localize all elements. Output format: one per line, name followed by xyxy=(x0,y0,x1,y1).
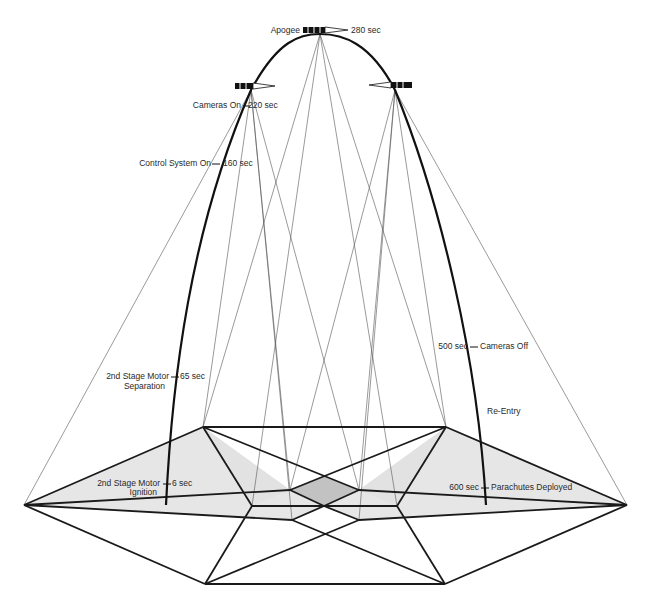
cameras-on-time: 220 sec xyxy=(248,100,279,110)
payload-satellite-icon-right xyxy=(369,82,412,88)
ignition-label-line2: Ignition xyxy=(130,487,158,497)
separation-time: 65 sec xyxy=(180,371,206,381)
apogee-time: 280 sec xyxy=(351,25,382,35)
camera-view-cone-icon xyxy=(369,82,391,88)
cameras-on-label: Cameras On xyxy=(193,100,241,110)
camera-view-cone-icon xyxy=(325,27,348,33)
re-entry-label: Re-Entry xyxy=(487,406,521,416)
payload-satellite-icon-apogee xyxy=(303,27,348,33)
separation-label-line2: Separation xyxy=(124,381,165,391)
payload-satellite-icon-left xyxy=(235,83,275,89)
sight-rays xyxy=(24,34,627,520)
control-system-on-label: Control System On xyxy=(139,158,211,168)
parachutes-time: 600 sec xyxy=(449,482,480,492)
control-system-on-time: 160 sec xyxy=(223,158,254,168)
separation-label-line1: 2nd Stage Motor xyxy=(106,371,169,381)
ignition-time: 6 sec xyxy=(172,478,193,488)
cameras-off-label: Cameras Off xyxy=(480,341,529,351)
cameras-off-time: 500 sec xyxy=(438,341,469,351)
camera-view-cone-icon xyxy=(253,83,275,89)
parachutes-label: Parachutes Deployed xyxy=(491,482,573,492)
apogee-label: Apogee xyxy=(271,25,301,35)
flight-profile-diagram: Apogee 280 sec Cameras On 220 sec Contro… xyxy=(0,0,654,607)
